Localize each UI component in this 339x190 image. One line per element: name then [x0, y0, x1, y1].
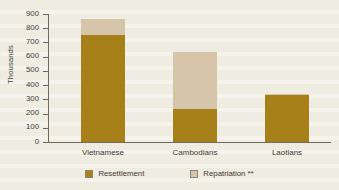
bar-segment-resettlement[interactable]	[81, 35, 125, 142]
resettlement-swatch-icon	[85, 170, 93, 178]
legend-item[interactable]: Repatriation **	[190, 169, 253, 178]
y-axis-title: Thousands	[6, 30, 15, 100]
y-axis-tick-mark	[43, 114, 48, 115]
y-axis-tick-mark	[43, 57, 48, 58]
y-axis-tick-mark	[43, 42, 48, 43]
bar-segment-resettlement[interactable]	[265, 95, 309, 142]
plot-area: 9008007006005004003002001000	[48, 14, 331, 143]
y-axis-tick-label: 200	[26, 108, 39, 117]
y-axis-tick-mark	[43, 71, 48, 72]
x-axis-category-label: Cambodians	[150, 148, 240, 157]
y-axis-tick-mark	[43, 128, 48, 129]
bar-segment-repatriation[interactable]	[173, 52, 217, 108]
x-axis-category-label: Laotians	[242, 148, 332, 157]
y-axis-tick-mark	[43, 85, 48, 86]
legend-item-label: Repatriation **	[203, 169, 253, 178]
bar-segment-repatriation[interactable]	[81, 19, 125, 35]
y-axis-tick-label: 0	[35, 137, 39, 146]
bar-segment-resettlement[interactable]	[173, 109, 217, 142]
bar-stack[interactable]	[173, 52, 217, 142]
x-axis-category-label: Vietnamese	[58, 148, 148, 157]
y-axis-tick-label: 400	[26, 80, 39, 89]
chart-legend: ResettlementRepatriation **	[0, 169, 339, 178]
y-axis-line	[48, 14, 49, 143]
stacked-bar-chart: Thousands 9008007006005004003002001000 V…	[0, 0, 339, 190]
y-axis-tick-mark	[43, 28, 48, 29]
legend-item-label: Resettlement	[98, 169, 144, 178]
bar-stack[interactable]	[265, 94, 309, 142]
x-axis-line	[48, 142, 331, 143]
bar-stack[interactable]	[81, 19, 125, 142]
y-axis-tick-label: 300	[26, 94, 39, 103]
y-axis-tick-label: 700	[26, 37, 39, 46]
y-axis-tick-label: 900	[26, 9, 39, 18]
y-axis-tick-mark	[43, 142, 48, 143]
y-axis-tick-label: 800	[26, 23, 39, 32]
y-axis-tick-label: 100	[26, 122, 39, 131]
legend-item[interactable]: Resettlement	[85, 169, 144, 178]
y-axis-tick-label: 600	[26, 51, 39, 60]
y-axis-tick-mark	[43, 14, 48, 15]
repatriation-swatch-icon	[190, 170, 198, 178]
y-axis-tick-label: 500	[26, 65, 39, 74]
y-axis-tick-mark	[43, 99, 48, 100]
